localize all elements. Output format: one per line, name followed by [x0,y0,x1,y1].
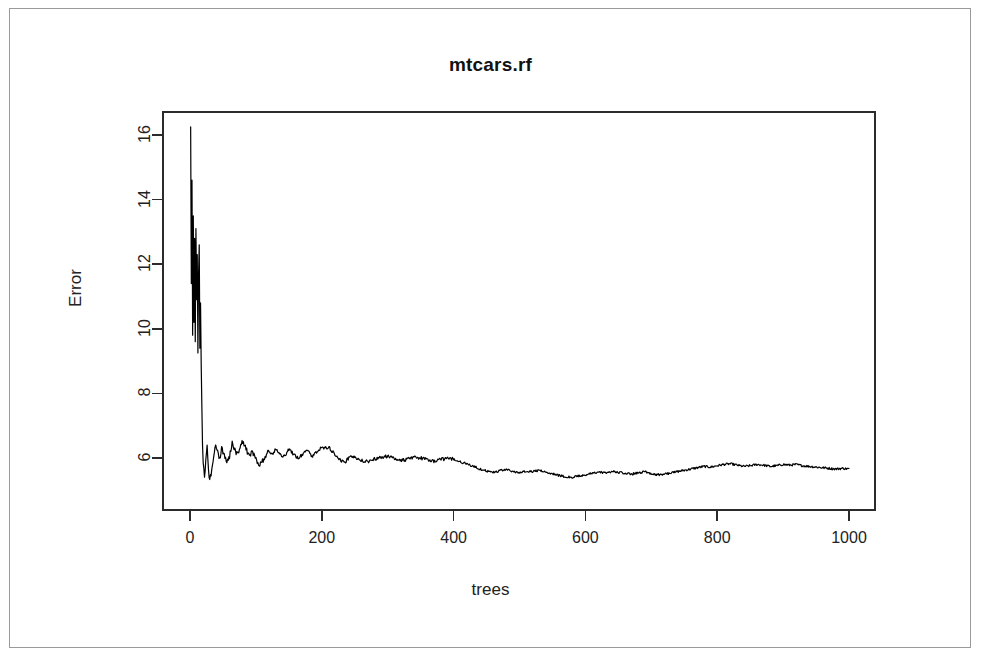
y-tick-label: 14 [136,184,154,214]
y-tick-label: 16 [136,119,154,149]
y-tick-label: 6 [136,442,154,472]
y-tick-label: 12 [136,248,154,278]
x-tick-label: 0 [186,529,195,547]
x-tick-label: 600 [572,529,599,547]
x-tick-label: 400 [440,529,467,547]
y-tick-label: 8 [136,377,154,407]
x-tick-label: 1000 [831,529,867,547]
error-curve [191,127,849,480]
y-tick-label: 10 [136,313,154,343]
axes-group [152,112,875,521]
plot-box [163,112,875,510]
data-series-group [191,127,849,480]
x-tick-label: 200 [308,529,335,547]
plot-page: mtcars.rf Error trees 020040060080010006… [0,0,981,658]
x-tick-label: 800 [704,529,731,547]
